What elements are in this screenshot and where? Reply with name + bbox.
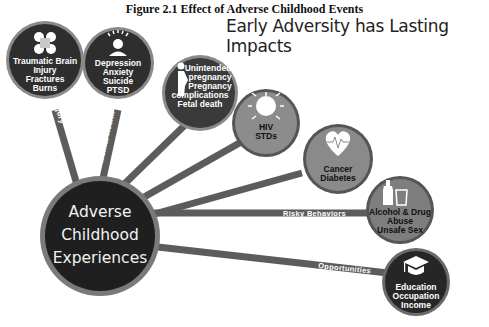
node-opportunities: Education Occupation Income	[382, 248, 450, 316]
spoke-label-opportunities: Opportunities	[318, 261, 372, 275]
spoke-label-infectious-disease: Infectious Disease	[162, 139, 229, 181]
svg-text:STDs: STDs	[255, 131, 277, 141]
hub-node: Adverse Childhood Experiences	[40, 176, 160, 296]
svg-text:Unsafe Sex: Unsafe Sex	[377, 225, 423, 235]
ace-diagram: Injury Mental Health Maternal Health Inf…	[0, 0, 489, 327]
node-risky-behaviors: Alcohol & Drug Abuse Unsafe Sex	[366, 176, 434, 244]
node-chronic-disease: Cancer Diabetes	[303, 124, 373, 194]
node-mental-health: Depression Anxiety Suicide PTSD	[82, 27, 154, 99]
svg-text:PTSD: PTSD	[107, 85, 130, 95]
svg-text:Diabetes: Diabetes	[320, 173, 356, 183]
hub-line-3: Experiences	[53, 249, 148, 267]
svg-text:Fetal death: Fetal death	[178, 99, 223, 109]
svg-text:Income: Income	[401, 300, 431, 310]
node-maternal-health: Unintended pregnancy Pregnancy complicat…	[162, 55, 238, 131]
node-infectious-disease: HIV STDs	[232, 89, 300, 157]
hub-line-1: Adverse	[69, 203, 132, 221]
spoke-label-risky-behaviors: Risky Behaviors	[283, 209, 346, 218]
svg-text:Burns: Burns	[33, 83, 58, 93]
node-injury: Traumatic Brain Injury Fractures Burns	[6, 21, 84, 99]
hub-line-2: Childhood	[61, 226, 139, 244]
